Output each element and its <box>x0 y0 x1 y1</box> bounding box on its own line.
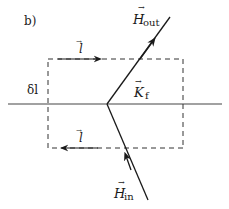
label-l-top: → l <box>76 38 83 56</box>
label-k-f: → K f <box>133 77 150 101</box>
svg-text:l: l <box>79 42 83 56</box>
label-h-in: → H in <box>113 178 134 202</box>
svg-text:l: l <box>79 131 83 145</box>
boundary-condition-diagram: b) → H out → l δl → K f → l → H in <box>0 0 229 209</box>
svg-text:in: in <box>124 191 134 202</box>
panel-label: b) <box>24 14 36 28</box>
svg-text:f: f <box>145 90 150 101</box>
label-l-bottom: → l <box>76 127 83 145</box>
svg-text:out: out <box>143 17 159 28</box>
svg-text:→: → <box>138 3 145 12</box>
label-delta-l: δl <box>27 83 38 97</box>
svg-text:K: K <box>133 85 145 100</box>
field-out-arrow-icon <box>140 41 153 59</box>
label-h-out: → H out <box>132 3 159 28</box>
